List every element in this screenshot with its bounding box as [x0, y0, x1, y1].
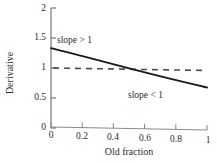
x-axis-line [51, 127, 207, 130]
y-tick-label-1: 1 [18, 63, 46, 73]
annotation-slope-less-than-one: slope < 1 [128, 91, 163, 101]
y-axis-title: Derivative [5, 41, 15, 105]
y-tick-label-1-5: 1.5 [18, 33, 46, 43]
derivative-curve [51, 48, 207, 87]
x-axis-title: Old fraction [51, 147, 207, 157]
x-tick-label-0-6: 0.6 [133, 134, 157, 144]
annotation-slope-greater-than-one: slope > 1 [57, 36, 92, 46]
x-tick-label-0-4: 0.4 [101, 133, 125, 143]
x-tick-label-0-8: 0.8 [164, 135, 188, 145]
x-tick-label-0: 0 [39, 131, 63, 141]
derivative-vs-old-fraction-chart: 2 1.5 1 0.5 0 0 0.2 0.4 0.6 0.8 1 Deriva… [0, 0, 217, 163]
x-tick-label-0-2: 0.2 [70, 132, 94, 142]
y-tick-label-0-5: 0.5 [18, 93, 46, 103]
y-tick-label-2: 2 [18, 4, 46, 14]
x-tick-label-1: 1 [196, 136, 217, 146]
